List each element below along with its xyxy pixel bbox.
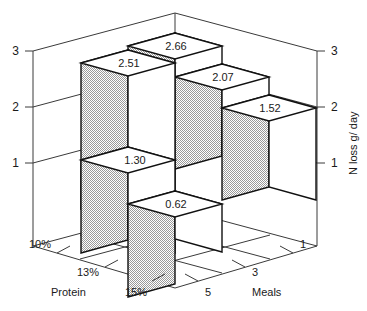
right-axis-tick-label-2: 2 <box>331 100 338 114</box>
left-axis-ticks <box>25 51 33 163</box>
left-axis-tick-label-3: 3 <box>12 44 19 58</box>
three-d-bar-chart: 3 2 1 3 2 1 N loss g/ day 2.66 2.07 <box>0 0 367 311</box>
left-axis-tick-label-2: 2 <box>12 100 19 114</box>
bar-protein-15-meals-5: 0.62 <box>128 191 222 297</box>
right-axis-tick-label-3: 3 <box>331 44 338 58</box>
bar-value-label: 2.51 <box>118 57 139 69</box>
bar-protein-15-meals-1: 1.52 <box>222 95 316 200</box>
bar-value-label: 2.66 <box>165 40 186 52</box>
protein-tick-label-15: 15% <box>125 286 147 298</box>
meals-axis-title: Meals <box>252 286 282 298</box>
meals-tick-3 <box>232 260 245 267</box>
left-axis-tick-label-1: 1 <box>12 156 19 170</box>
meals-tick-label-1: 1 <box>300 238 306 250</box>
meals-tick-1 <box>280 246 293 253</box>
chart-canvas: 3 2 1 3 2 1 N loss g/ day 2.66 2.07 <box>0 0 367 311</box>
protein-tick-10 <box>57 246 70 253</box>
protein-axis-title: Protein <box>51 286 86 298</box>
protein-tick-13 <box>105 260 118 267</box>
vertical-axis-title: N loss g/ day <box>347 111 359 175</box>
protein-tick-label-10: 10% <box>29 238 51 250</box>
bar-value-label: 0.62 <box>165 198 186 210</box>
bar-value-label: 1.52 <box>259 102 280 114</box>
right-axis-ticks <box>317 51 325 163</box>
bar-value-label: 2.07 <box>212 71 233 83</box>
meals-axis-ticks <box>185 246 293 281</box>
meals-tick-label-3: 3 <box>252 266 258 278</box>
meals-tick-5 <box>185 274 198 281</box>
right-axis-tick-label-1: 1 <box>331 156 338 170</box>
bar-value-label: 1.30 <box>124 154 145 166</box>
meals-tick-label-5: 5 <box>205 286 211 298</box>
protein-tick-label-13: 13% <box>77 266 99 278</box>
